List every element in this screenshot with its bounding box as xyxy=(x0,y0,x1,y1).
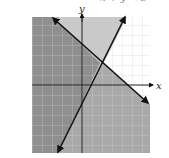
x-axis-label: x xyxy=(156,80,162,91)
y-axis-label: y xyxy=(78,3,85,14)
inequality-graph: y x xyxy=(0,0,169,158)
